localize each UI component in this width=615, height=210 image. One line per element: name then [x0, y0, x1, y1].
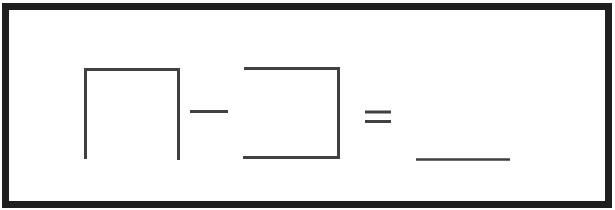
minuend-box — [86, 70, 179, 161]
subtrahend-box — [243, 69, 339, 158]
worksheet-canvas — [0, 0, 615, 210]
worksheet-frame-border — [6, 7, 609, 205]
equals-sign — [365, 112, 391, 122]
worksheet-image — [0, 0, 615, 210]
